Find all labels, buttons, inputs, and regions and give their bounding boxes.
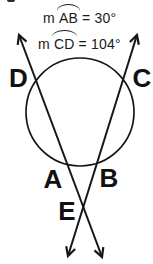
point-label-e: E: [58, 196, 75, 226]
point-label-c: C: [133, 63, 152, 93]
point-label-d: D: [9, 63, 28, 93]
secant-line-through-c-b-e: [68, 35, 137, 256]
circle: [26, 58, 134, 166]
point-label-a: A: [44, 164, 63, 194]
circle-secants-drawing: D C A B E: [0, 0, 153, 264]
geometry-figure: m AB = 30° m CD = 104° D C A B E: [0, 0, 153, 264]
point-label-b: B: [100, 163, 119, 193]
